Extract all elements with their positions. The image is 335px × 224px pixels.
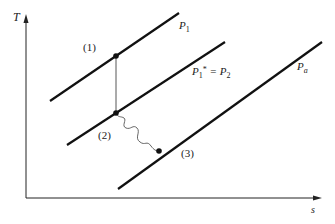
ts-diagram: T s (1) (2) (3) P1 P1* = P2 Pa	[0, 0, 335, 224]
state-point-1	[113, 53, 119, 59]
wavy-line-2-3	[116, 113, 159, 151]
y-axis-label: T	[13, 10, 21, 24]
axes	[24, 14, 323, 201]
isobar-p1-label: P1	[178, 19, 190, 34]
state-point-2	[113, 110, 119, 116]
x-axis-label: s	[311, 204, 315, 215]
x-axis-arrow-icon	[313, 196, 322, 201]
state-point-3	[156, 148, 162, 154]
isobar-p2-label: P1* = P2	[191, 65, 230, 80]
state-label-2: (2)	[98, 129, 111, 142]
state-label-1: (1)	[83, 41, 96, 54]
state-label-3: (3)	[181, 147, 194, 160]
isobar-pa-label: Pa	[296, 60, 308, 75]
y-axis-arrow-icon	[24, 14, 29, 23]
